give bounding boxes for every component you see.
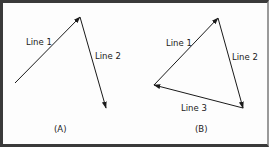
panel-a-line-1-label: Line 1 (26, 37, 52, 47)
panel-b-line-3-label: Line 3 (181, 103, 207, 113)
panel-a-line-2-label: Line 2 (95, 51, 121, 61)
panel-b: Line 1 Line 2 Line 3 (B) (154, 18, 258, 134)
panel-a-line-1-arrow (15, 17, 80, 83)
panel-b-line-1-label: Line 1 (166, 38, 192, 48)
panel-b-line-2-label: Line 2 (232, 52, 258, 62)
panel-b-caption: (B) (195, 124, 207, 134)
vector-diagram: Line 1 Line 2 (A) Line 1 Line 2 Line 3 (… (0, 0, 269, 147)
panel-b-line-2-arrow (218, 18, 243, 108)
panel-a-caption: (A) (54, 124, 66, 134)
panel-a-line-2-arrow (80, 17, 106, 108)
panel-a: Line 1 Line 2 (A) (15, 17, 121, 134)
panel-b-line-1-arrow (154, 18, 218, 85)
